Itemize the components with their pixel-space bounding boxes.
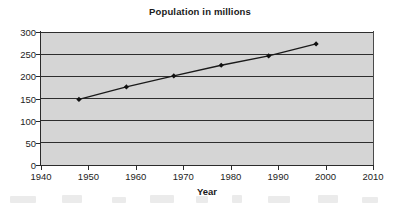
data-series-layer bbox=[41, 32, 373, 165]
x-tick-label-1980: 1980 bbox=[210, 171, 252, 182]
x-tick-label-2010: 2010 bbox=[352, 171, 394, 182]
y-tick-label-100: 100 bbox=[2, 115, 36, 126]
y-tick-label-250: 250 bbox=[2, 49, 36, 60]
scan-artifact-group bbox=[0, 192, 400, 209]
data-point-1978 bbox=[219, 63, 224, 68]
series-line-0 bbox=[79, 44, 316, 99]
x-tick-1980 bbox=[231, 166, 232, 170]
y-tick-label-200: 200 bbox=[2, 71, 36, 82]
x-tick-label-2000: 2000 bbox=[305, 171, 347, 182]
x-tick-1950 bbox=[88, 166, 89, 170]
y-tick-50 bbox=[36, 143, 40, 144]
population-line-chart: Population in millions 05010015020025030… bbox=[0, 0, 400, 209]
x-tick-2010 bbox=[373, 166, 374, 170]
plot-right-border bbox=[373, 31, 374, 166]
data-point-1988 bbox=[266, 53, 271, 58]
y-tick-label-50: 50 bbox=[2, 137, 36, 148]
x-axis-line bbox=[40, 165, 374, 166]
x-tick-label-1990: 1990 bbox=[257, 171, 299, 182]
data-point-1958 bbox=[124, 84, 129, 89]
y-tick-150 bbox=[36, 99, 40, 100]
data-point-1948 bbox=[76, 97, 81, 102]
chart-title: Population in millions bbox=[0, 6, 400, 17]
x-tick-1970 bbox=[183, 166, 184, 170]
y-tick-300 bbox=[36, 32, 40, 33]
y-tick-100 bbox=[36, 121, 40, 122]
x-tick-label-1970: 1970 bbox=[162, 171, 204, 182]
x-tick-2000 bbox=[326, 166, 327, 170]
data-point-1968 bbox=[171, 73, 176, 78]
y-tick-0 bbox=[36, 165, 40, 166]
x-tick-1940 bbox=[41, 166, 42, 170]
x-tick-label-1950: 1950 bbox=[67, 171, 109, 182]
y-tick-label-0: 0 bbox=[2, 160, 36, 171]
y-tick-label-300: 300 bbox=[2, 27, 36, 38]
x-tick-1960 bbox=[136, 166, 137, 170]
y-tick-200 bbox=[36, 76, 40, 77]
x-tick-label-1940: 1940 bbox=[20, 171, 62, 182]
x-tick-label-1960: 1960 bbox=[115, 171, 157, 182]
y-tick-label-150: 150 bbox=[2, 93, 36, 104]
y-tick-250 bbox=[36, 54, 40, 55]
x-tick-1990 bbox=[278, 166, 279, 170]
data-point-1998 bbox=[313, 41, 318, 46]
